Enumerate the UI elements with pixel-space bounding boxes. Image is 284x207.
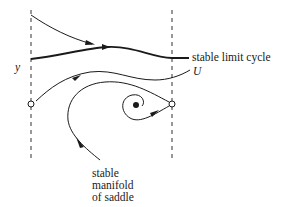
- limit-cycle-arrow-icon: [102, 44, 110, 50]
- right-saddle-point: [169, 101, 175, 107]
- stable-manifold-arrow-icon: [76, 137, 84, 148]
- focus-point: [133, 102, 139, 108]
- u-curve: [36, 70, 190, 101]
- stable-manifold-label: stable manifold of saddle: [92, 167, 134, 203]
- y-label: y: [15, 61, 20, 73]
- left-saddle-point: [28, 101, 34, 107]
- manifold-label-line-1: stable: [92, 167, 134, 179]
- stable-limit-cycle-curve: [31, 47, 189, 59]
- manifold-label-line-3: of saddle: [92, 191, 134, 203]
- stable-manifold-curve: [68, 82, 169, 160]
- u-label: U: [193, 65, 201, 77]
- manifold-label-line-2: manifold: [92, 179, 134, 191]
- phase-portrait-diagram: [0, 0, 284, 207]
- top-trajectory: [31, 15, 92, 44]
- top-trajectory-arrow-icon: [85, 40, 95, 45]
- stable-limit-cycle-label: stable limit cycle: [192, 51, 271, 63]
